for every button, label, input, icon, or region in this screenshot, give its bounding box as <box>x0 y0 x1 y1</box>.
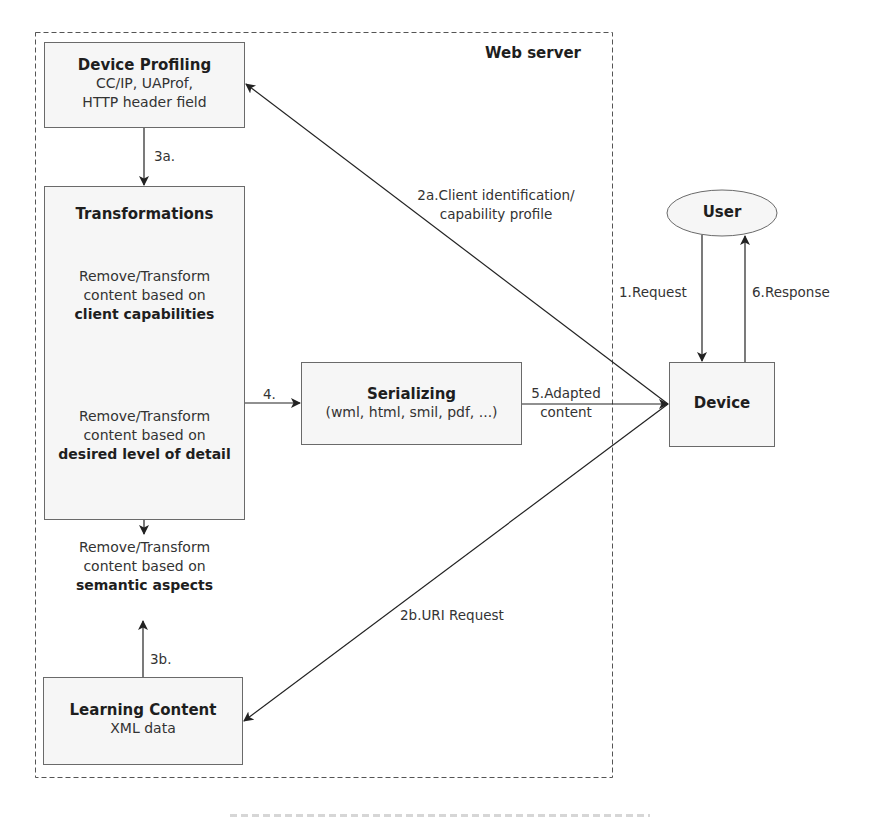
transform-step-2-line-2: content based on <box>45 426 244 445</box>
edge-2a-label-line-2: capability profile <box>396 205 596 224</box>
learning-content-title: Learning Content <box>44 701 242 719</box>
edge-1-label: 1.Request <box>619 283 687 302</box>
transform-step-2-line-1: Remove/Transform <box>45 407 244 426</box>
transform-step-2-emphasis: desired level of detail <box>45 445 244 464</box>
transform-step-3-emphasis: semantic aspects <box>45 576 244 595</box>
transformations-title: Transformations <box>45 205 244 223</box>
edge-5-label-line-2: content <box>524 403 608 422</box>
edge-3a-label: 3a. <box>154 147 175 166</box>
edge-2a-arrow <box>246 84 668 404</box>
learning-content-subtitle: XML data <box>44 719 242 738</box>
web-server-label: Web server <box>485 44 581 62</box>
edge-2a-label-line-1: 2a.Client identification/ <box>396 186 596 205</box>
device-title: Device <box>670 394 774 412</box>
edge-3b-label: 3b. <box>150 650 171 669</box>
serializing-title: Serializing <box>302 385 521 403</box>
cropped-figure-caption <box>0 806 876 817</box>
edge-2a-label: 2a.Client identification/ capability pro… <box>396 186 596 224</box>
edge-4-label: 4. <box>263 385 276 404</box>
transformations-node: Transformations Remove/Transform content… <box>44 186 245 520</box>
learning-content-node: Learning Content XML data <box>43 677 243 765</box>
edge-6-label: 6.Response <box>752 283 830 302</box>
user-node-label: User <box>667 203 777 221</box>
edge-2b-arrow <box>244 404 668 721</box>
transform-step-client-capabilities: Remove/Transform content based on client… <box>45 267 244 324</box>
transform-step-3-line-2: content based on <box>45 557 244 576</box>
device-node: Device <box>669 362 775 447</box>
transform-step-1-emphasis: client capabilities <box>45 305 244 324</box>
device-profiling-line-1: CC/IP, UAProf, <box>45 74 244 93</box>
device-profiling-title: Device Profiling <box>45 56 244 74</box>
serializing-formats: (wml, html, smil, pdf, ...) <box>302 403 521 422</box>
transform-step-1-line-2: content based on <box>45 286 244 305</box>
edge-5-label-line-1: 5.Adapted <box>524 384 608 403</box>
edge-5-label: 5.Adapted content <box>524 384 608 422</box>
transform-step-desired-level-of-detail: Remove/Transform content based on desire… <box>45 407 244 464</box>
transform-step-semantic-aspects: Remove/Transform content based on semant… <box>45 538 244 595</box>
device-profiling-line-2: HTTP header field <box>45 93 244 112</box>
transform-step-1-line-1: Remove/Transform <box>45 267 244 286</box>
device-profiling-node: Device Profiling CC/IP, UAProf, HTTP hea… <box>44 42 245 128</box>
serializing-node: Serializing (wml, html, smil, pdf, ...) <box>301 362 522 445</box>
edge-2b-label: 2b.URI Request <box>400 606 504 625</box>
transform-step-3-line-1: Remove/Transform <box>45 538 244 557</box>
